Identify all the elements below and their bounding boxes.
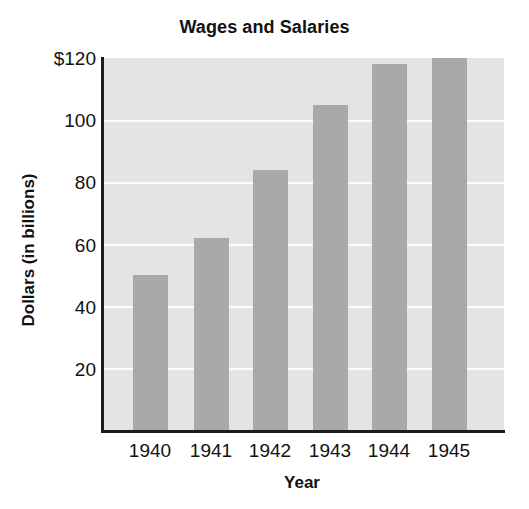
bar-1940 [133,275,168,430]
bar-1943 [313,105,348,431]
y-tick-label-20: 20 [0,360,96,379]
bar-1945 [432,58,467,430]
bar-1942 [253,170,288,430]
plot-area [104,58,504,430]
y-tick-label-40: 40 [0,298,96,317]
x-axis-line [101,430,505,433]
y-axis-line [101,57,104,432]
y-tick-label-120: $120 [0,49,96,68]
y-axis-tick-labels: $120 100 80 60 40 20 [0,0,96,509]
bar-1944 [372,64,407,430]
bar-chart-figure: Wages and Salaries Dollars (in billions)… [0,0,529,509]
bar-1941 [194,238,229,430]
y-tick-label-100: 100 [0,111,96,130]
x-tick-label-1940: 1940 [115,440,185,462]
y-tick-label-60: 60 [0,236,96,255]
x-tick-label-1945: 1945 [414,440,484,462]
y-tick-label-80: 80 [0,173,96,192]
x-axis-title: Year [100,473,504,493]
